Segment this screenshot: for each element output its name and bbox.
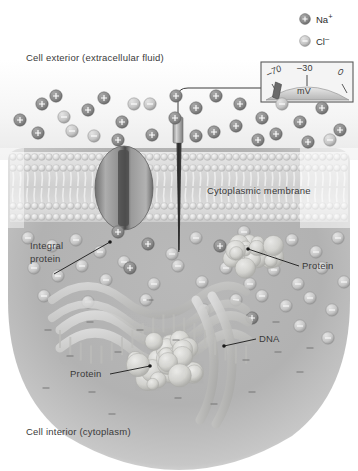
protein-lower-label: Protein: [70, 368, 102, 379]
voltmeter-tick-minus30: –30: [297, 63, 313, 73]
legend-glyphs: [300, 14, 311, 47]
interior-label: Cell interior (cytoplasm): [26, 426, 131, 437]
integral-protein-label-line1: Integral: [30, 240, 63, 251]
voltmeter-unit: mV: [297, 86, 311, 96]
legend-label-na: Na+: [316, 12, 333, 25]
integral-protein-label-line2: protein: [30, 253, 60, 264]
integral-protein[interactable]: [95, 146, 153, 230]
cytoplasmic-membrane-label: Cytoplasmic membrane: [207, 185, 311, 196]
legend-label-cl: Cl–: [316, 34, 329, 47]
dna-label: DNA: [259, 333, 280, 344]
protein-channel-pore: [118, 150, 129, 226]
protein-right-label: Protein: [302, 260, 334, 271]
exterior-label: Cell exterior (extracellular fluid): [26, 52, 164, 63]
